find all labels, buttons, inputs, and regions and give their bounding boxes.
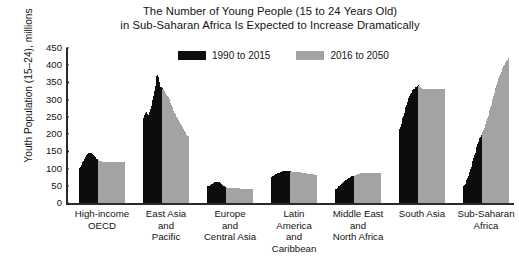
chart-title-line-1: The Number of Young People (15 to 24 Yea… — [60, 4, 480, 18]
y-tick-label: 450 — [36, 43, 62, 53]
x-tick-label: South Asia — [390, 208, 454, 220]
y-axis-label: Youth Population (15–24), millions — [23, 0, 34, 176]
bar-series — [271, 48, 318, 203]
x-tick-label: LatinAmericaandCaribbean — [262, 208, 326, 254]
y-tick-mark — [66, 82, 69, 83]
bar-projected — [444, 89, 445, 203]
x-tick-label-line: Europe — [198, 208, 262, 220]
bar-group — [79, 48, 126, 203]
x-tick-label-line: and — [198, 220, 262, 232]
y-tick-mark — [66, 65, 69, 66]
y-tick-label: 400 — [36, 60, 62, 70]
bar-series — [79, 48, 126, 203]
chart-title-line-2: in Sub-Saharan Africa Is Expected to Inc… — [60, 18, 480, 32]
y-tick-mark — [66, 47, 69, 48]
x-tick-label: Sub-SaharanAfrica — [454, 208, 518, 231]
x-axis-line — [66, 203, 514, 205]
x-tick-label-line: Caribbean — [262, 243, 326, 255]
x-tick-label: Middle EastandNorth Africa — [326, 208, 390, 243]
x-tick-label-line: Pacific — [134, 231, 198, 243]
bar-projected — [380, 173, 381, 203]
y-tick-mark — [66, 116, 69, 117]
x-tick-label-line: Africa — [454, 220, 518, 232]
x-tick-label-line: Central Asia — [198, 231, 262, 243]
x-tick-label: High-incomeOECD — [70, 208, 134, 231]
bar-group — [271, 48, 318, 203]
y-tick-label: 0 — [36, 198, 62, 208]
x-tick-label-line: South Asia — [390, 208, 454, 220]
bar-series — [463, 48, 510, 203]
x-tick-label-line: Middle East — [326, 208, 390, 220]
x-tick-label: EuropeandCentral Asia — [198, 208, 262, 243]
y-tick-mark — [66, 185, 69, 186]
y-axis-line — [66, 48, 68, 203]
bar-series — [207, 48, 254, 203]
x-tick-label-line: East Asia — [134, 208, 198, 220]
bar-projected — [508, 58, 509, 203]
y-tick-label: 350 — [36, 78, 62, 88]
bar-projected — [316, 175, 317, 203]
bar-projected — [124, 162, 125, 203]
y-tick-label: 50 — [36, 181, 62, 191]
x-tick-label-line: and — [134, 220, 198, 232]
y-tick-label: 150 — [36, 147, 62, 157]
x-tick-label: East AsiaandPacific — [134, 208, 198, 243]
y-tick-mark — [66, 151, 69, 152]
y-tick-label: 250 — [36, 112, 62, 122]
y-tick-label: 300 — [36, 95, 62, 105]
x-tick-label-line: High-income — [70, 208, 134, 220]
y-tick-mark — [66, 134, 69, 135]
x-tick-label-line: North Africa — [326, 231, 390, 243]
x-tick-label-line: Sub-Saharan — [454, 208, 518, 220]
y-tick-label: 100 — [36, 164, 62, 174]
bar-projected — [188, 137, 189, 203]
bar-group — [335, 48, 382, 203]
x-tick-label-line: America — [262, 220, 326, 232]
chart-title: The Number of Young People (15 to 24 Yea… — [60, 4, 480, 32]
y-tick-mark — [66, 202, 69, 203]
chart-figure: The Number of Young People (15 to 24 Yea… — [0, 0, 519, 266]
bar-group — [143, 48, 190, 203]
bar-group — [463, 48, 510, 203]
x-tick-label-line: OECD — [70, 220, 134, 232]
bar-group — [207, 48, 254, 203]
x-tick-label-line: Latin — [262, 208, 326, 220]
bar-projected — [252, 189, 253, 203]
x-tick-label-line: and — [326, 220, 390, 232]
plot-area: 050100150200250300350400450 High-incomeO… — [66, 48, 514, 203]
y-tick-mark — [66, 99, 69, 100]
bar-series — [399, 48, 446, 203]
y-tick-mark — [66, 168, 69, 169]
y-tick-label: 200 — [36, 129, 62, 139]
bar-series — [143, 48, 190, 203]
x-tick-label-line: and — [262, 231, 326, 243]
bar-group — [399, 48, 446, 203]
bar-series — [335, 48, 382, 203]
